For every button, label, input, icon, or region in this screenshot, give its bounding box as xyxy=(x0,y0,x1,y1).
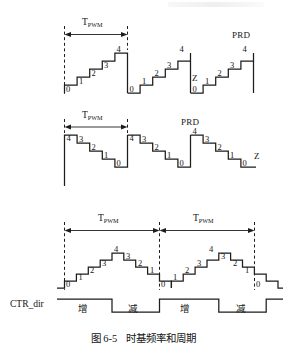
zero-marker-label: Z xyxy=(254,152,260,161)
counter-value: 1 xyxy=(205,77,209,86)
tpwm-T: T xyxy=(98,213,104,223)
counter-value: 3 xyxy=(167,61,171,70)
counter-value: 4 xyxy=(117,45,121,54)
counter-value: 3 xyxy=(126,252,130,261)
counter-value: 0 xyxy=(130,85,134,94)
counter-value: 0 xyxy=(66,280,70,289)
counter-value: 4 xyxy=(193,127,197,136)
counter-value: 4 xyxy=(243,45,247,54)
tpwm-label-3a: TPWM xyxy=(98,213,119,223)
counter-value: 1 xyxy=(150,266,154,275)
tpwm-sub: PWM xyxy=(88,21,103,28)
counter-value: 3 xyxy=(221,252,225,261)
panel-down-count xyxy=(65,119,257,186)
counter-value: 3 xyxy=(142,135,146,144)
counter-value: 0 xyxy=(180,159,184,168)
counter-value: 2 xyxy=(155,143,159,152)
panel-up-down-count xyxy=(57,222,283,290)
ctr-dir-signal xyxy=(57,299,283,312)
counter-value: 1 xyxy=(142,77,146,86)
ctr-dir-label: CTR_dir xyxy=(10,299,44,309)
counter-value: 1 xyxy=(173,273,177,282)
counter-value: 2 xyxy=(218,69,222,78)
counter-value: 2 xyxy=(92,69,96,78)
counter-value: 3 xyxy=(79,135,83,144)
counter-value: 2 xyxy=(218,143,222,152)
counter-value: 1 xyxy=(79,273,83,282)
tpwm-label-2: TPWM xyxy=(82,110,103,120)
counter-value: 4 xyxy=(114,245,118,254)
counter-value: 4 xyxy=(67,134,71,143)
caption-number: 图 6-5 xyxy=(91,333,118,344)
counter-value: 3 xyxy=(104,61,108,70)
prd-label: PRD xyxy=(181,118,199,127)
counter-value: 3 xyxy=(230,61,234,70)
ctr-dir-trace xyxy=(57,299,283,312)
tpwm-arrow xyxy=(65,32,128,37)
counter-value: 2 xyxy=(233,259,237,268)
counter-value: 4 xyxy=(209,245,213,254)
ctr-dir-segment-up-2: 增 xyxy=(180,301,190,315)
tpwm-label-1: TPWM xyxy=(82,17,103,27)
tpwm-sub: PWM xyxy=(199,217,214,224)
figure-container: TPWM 0 1 2 3 4 0 1 2 3 4 0 1 2 3 4 Z PRD… xyxy=(0,0,287,351)
tpwm-T: T xyxy=(193,213,199,223)
panel-up-count xyxy=(65,26,254,94)
staircase-ramp-3 xyxy=(191,53,254,93)
counter-value: 1 xyxy=(79,77,83,86)
counter-value: 4 xyxy=(180,45,184,54)
counter-value: 2 xyxy=(90,266,94,275)
tpwm-arrow-2 xyxy=(65,125,128,130)
staircase-ramp-2 xyxy=(128,53,191,93)
tpwm-arrow-3b xyxy=(160,228,255,233)
counter-value: 3 xyxy=(102,259,106,268)
counter-value: 0 xyxy=(117,159,121,168)
counter-value: 0 xyxy=(161,280,165,289)
tpwm-arrow-3a xyxy=(65,228,160,233)
zero-marker-label: Z xyxy=(192,74,198,83)
counter-value: 2 xyxy=(155,69,159,78)
counter-value: 1 xyxy=(245,266,249,275)
staircase-ramp-1 xyxy=(65,53,128,93)
tpwm-sub: PWM xyxy=(104,217,119,224)
counter-value: 2 xyxy=(185,266,189,275)
counter-value: 2 xyxy=(138,259,142,268)
ctr-dir-segment-down-1: 减 xyxy=(128,301,138,315)
prd-label: PRD xyxy=(232,31,250,40)
counter-value: 1 xyxy=(104,151,108,160)
tpwm-label-3b: TPWM xyxy=(193,213,214,223)
counter-value: 0 xyxy=(66,85,70,94)
counter-value: 0 xyxy=(193,85,197,94)
ctr-dir-segment-up-1: 增 xyxy=(78,301,88,315)
counter-value: 2 xyxy=(92,143,96,152)
tpwm-T: T xyxy=(82,17,88,27)
ctr-dir-segment-down-2: 减 xyxy=(236,301,246,315)
figure-caption: 图 6-5时基频率和周期 xyxy=(0,330,287,345)
counter-value: 3 xyxy=(205,135,209,144)
counter-value: 4 xyxy=(130,134,134,143)
counter-value: 1 xyxy=(230,151,234,160)
counter-value: 3 xyxy=(197,259,201,268)
tpwm-sub: PWM xyxy=(88,114,103,121)
tpwm-T: T xyxy=(82,110,88,120)
caption-title: 时基频率和周期 xyxy=(126,332,196,344)
counter-value: 1 xyxy=(167,151,171,160)
counter-value: 0 xyxy=(243,159,247,168)
counter-value: 0 xyxy=(256,280,260,289)
